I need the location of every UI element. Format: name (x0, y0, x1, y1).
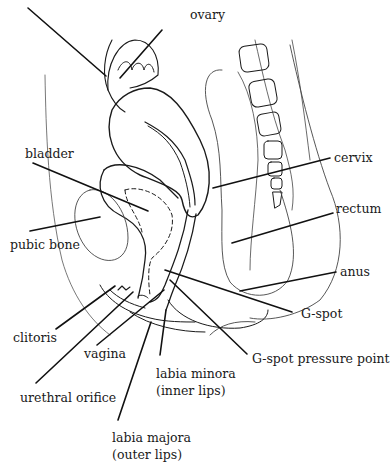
vertebra-2 (248, 78, 278, 108)
leader-labia-minora (160, 310, 166, 355)
leader-pubic-bone (30, 217, 100, 231)
leader-labia-majora (118, 322, 151, 420)
leader-clitoris (56, 286, 115, 329)
uterine-cavity (145, 122, 195, 205)
vagina-wall-front (150, 210, 188, 302)
vagina-wall-back (166, 214, 196, 310)
label-urethral-orifice: urethral orifice (20, 390, 116, 406)
label-bladder: bladder (25, 146, 74, 162)
label-vagina: vagina (84, 346, 126, 362)
leader-g-spot (165, 270, 292, 312)
rectum-outline (205, 70, 293, 295)
label-cervix: cervix (334, 150, 372, 166)
leader-g-spot-pressure (170, 280, 247, 354)
perineum (168, 300, 268, 328)
label-labia-minora-sub: (inner lips) (156, 383, 226, 399)
label-ovary: ovary (190, 7, 225, 23)
leader-vagina (97, 290, 164, 345)
vertebra-6 (271, 178, 282, 189)
pubic-bone (75, 190, 128, 261)
leader-rectum (232, 213, 333, 243)
coccyx (273, 192, 282, 208)
leader-fallopian (28, 8, 106, 76)
vertebra-1 (238, 43, 269, 73)
fimbriae (118, 62, 154, 72)
label-labia-majora-sub: (outer lips) (112, 447, 182, 463)
spine-outline (255, 40, 293, 210)
label-labia-majora: labia majora (112, 430, 191, 446)
label-pubic-bone: pubic bone (10, 237, 80, 253)
label-g-spot: G-spot (301, 306, 342, 322)
bladder-top (104, 165, 178, 198)
urethral-opening (138, 295, 148, 298)
leader-anus (240, 272, 336, 291)
body-contour-back (250, 45, 340, 319)
label-g-spot-pressure-point: G-spot pressure point (252, 351, 390, 367)
label-clitoris: clitoris (13, 330, 57, 346)
clitoris-shape (118, 286, 130, 290)
vertebra-3 (256, 111, 281, 136)
label-labia-minora: labia minora (156, 366, 236, 382)
label-anus: anus (340, 264, 370, 280)
spine-outline-back (292, 40, 310, 160)
label-rectum: rectum (336, 201, 381, 217)
bladder-inner-dashed-2 (125, 190, 142, 232)
vertebra-4 (264, 141, 282, 159)
